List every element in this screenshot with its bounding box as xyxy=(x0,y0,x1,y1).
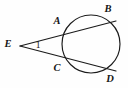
point-label-b: B xyxy=(103,3,111,14)
angle-label-1: 1 xyxy=(36,40,41,50)
point-label-e: E xyxy=(3,38,11,49)
point-label-d: D xyxy=(105,73,114,84)
point-label-c: C xyxy=(53,62,61,73)
geometry-figure: E A B C D 1 xyxy=(0,0,128,88)
geometry-canvas: E A B C D 1 xyxy=(0,0,128,88)
secant-line-eb xyxy=(20,21,116,46)
point-label-a: A xyxy=(52,15,60,26)
secant-line-ed xyxy=(20,46,116,71)
